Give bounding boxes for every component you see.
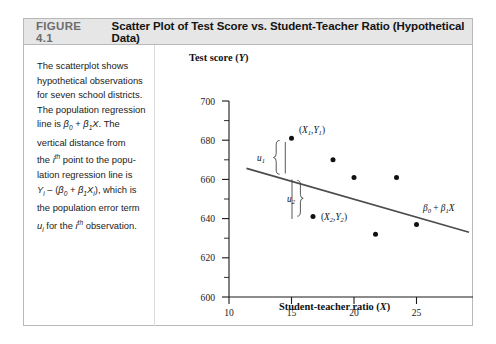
y-axis-title-main: Test score ( [189, 52, 239, 64]
data-point [352, 175, 357, 180]
y-tick-label-640: 640 [201, 213, 216, 224]
data-point [394, 175, 399, 180]
y-tick-label-620: 620 [201, 252, 216, 263]
figure-container: FIGURE 4.1 Scatter Plot of Test Score vs… [23, 18, 473, 326]
data-point [311, 214, 316, 219]
data-point [289, 136, 294, 141]
caption-line-5-text: line is [37, 118, 64, 129]
caption-line-7-end: point to the popu- [60, 155, 136, 166]
scatter-plot: Test score (Y) 700 680 660 640 620 600 [155, 45, 473, 326]
brace-u1 [273, 141, 279, 175]
u2-label: u2 [287, 194, 296, 205]
caption-plus-b: + [67, 184, 78, 195]
figure-caption: The scatterplot showshypothetical observ… [24, 45, 154, 237]
caption-line-11-end: observation. [83, 220, 137, 231]
brace-u2 [297, 181, 303, 217]
caption-line-5-end: . The [99, 118, 120, 129]
p2-close: ) [344, 212, 347, 223]
u1-sub: 1 [262, 157, 265, 164]
figure-title: Scatter Plot of Test Score vs. Student-T… [112, 20, 472, 44]
y-tick-label-600: 600 [201, 292, 216, 303]
y-tick-label-680: 680 [201, 135, 216, 146]
figure-number: FIGURE 4.1 [36, 20, 98, 44]
caption-line-8: lation regression line is [37, 169, 132, 180]
data-point-1-label: (X1,Y1) [299, 125, 325, 136]
x-axis-title-overlay-var: X [380, 301, 387, 312]
data-point-2-label: (X2,Y2) [321, 212, 347, 223]
y-axis-title-close: ) [245, 52, 248, 64]
caption-line-7-text: the [37, 155, 53, 166]
data-point [373, 232, 378, 237]
caption-line-9-end: ), which is [95, 184, 137, 195]
caption-line-2: hypothetical observations [37, 75, 143, 86]
caption-line-6: vertical distance from [37, 137, 126, 148]
caption-line-10: the population error term [37, 202, 140, 213]
data-point [414, 222, 419, 227]
x-tick-label-25: 25 [412, 307, 422, 318]
x-axis-title-overlay-main: Student-teacher ratio ( [279, 301, 380, 312]
x-tick-label-10: 10 [224, 307, 234, 318]
chart-pane: Test score (Y) 700 680 660 640 620 600 [155, 45, 473, 326]
caption-pane: The scatterplot showshypothetical observ… [24, 45, 155, 326]
caption-line-4: The population regression [37, 104, 145, 115]
x-axis-title-overlay: Student-teacher ratio (X) [279, 301, 390, 312]
p1-close: ) [322, 125, 325, 136]
caption-minus: – ( [45, 184, 59, 195]
x-axis-title-overlay-close: ) [387, 301, 390, 312]
caption-line-3: for seven school districts. [37, 89, 142, 100]
regression-line-label: β0 + β1X [422, 203, 455, 214]
caption-plus: + [73, 118, 84, 129]
data-point [331, 157, 336, 162]
y-tick-label-700: 700 [201, 96, 216, 107]
y-tick-label-660: 660 [201, 174, 216, 185]
y-axis-title: Test score (Y) [189, 52, 248, 64]
u1-label: u1 [257, 153, 265, 164]
caption-line-11-mid: for the [44, 220, 76, 231]
figure-header: FIGURE 4.1 Scatter Plot of Test Score vs… [24, 19, 472, 45]
caption-line-1: The scatterplot shows [37, 60, 128, 71]
regline-plus: + [431, 203, 441, 213]
regline-x: X [448, 203, 455, 213]
regression-line [247, 168, 470, 232]
u2-sub: 2 [292, 198, 296, 205]
